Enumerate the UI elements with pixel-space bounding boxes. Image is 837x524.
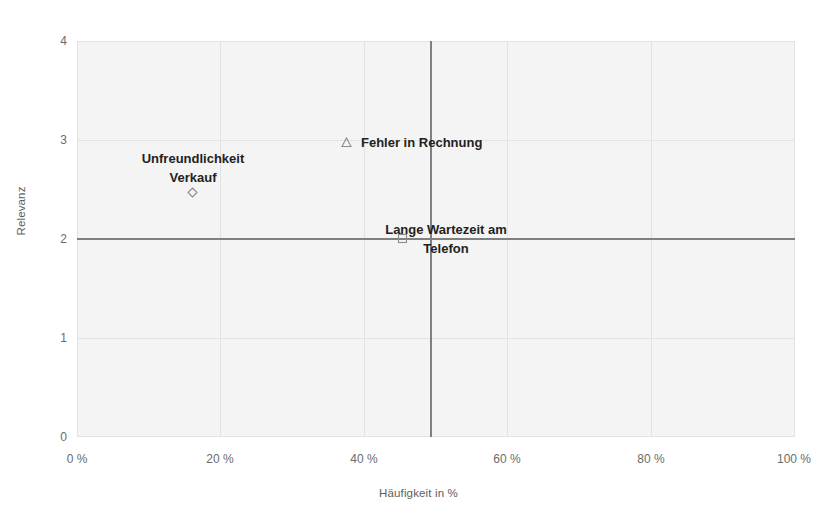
x-tick-label: 80 % xyxy=(606,452,696,466)
data-point-label: Fehler in Rechnung xyxy=(361,133,482,152)
y-tick-label: 0 xyxy=(7,430,67,444)
x-tick-label: 100 % xyxy=(749,452,837,466)
gridline-horizontal xyxy=(77,338,795,339)
data-point-label: Lange Wartezeit am Telefon xyxy=(335,220,557,258)
x-axis-title: Häufigkeit in % xyxy=(0,487,837,499)
data-point-label: Unfreundlichkeit Verkauf xyxy=(118,149,268,187)
x-tick-label: 0 % xyxy=(32,452,122,466)
data-point-label-line: Telefon xyxy=(335,239,557,258)
data-point-label-line: Unfreundlichkeit xyxy=(118,149,268,168)
y-tick-label: 1 xyxy=(7,331,67,345)
x-tick-label: 40 % xyxy=(319,452,409,466)
gridline-horizontal xyxy=(77,436,795,437)
data-point-marker-diamond xyxy=(187,187,198,198)
y-tick-label: 4 xyxy=(7,34,67,48)
gridline-horizontal xyxy=(77,41,795,42)
data-point-marker-triangle xyxy=(341,137,352,148)
data-point-label-line: Fehler in Rechnung xyxy=(361,133,482,152)
x-tick-label: 20 % xyxy=(175,452,265,466)
data-point-label-line: Verkauf xyxy=(118,168,268,187)
plot-area: Fehler in Rechnung Unfreundlichkeit Verk… xyxy=(77,41,795,437)
data-point-label-line: Lange Wartezeit am xyxy=(335,220,557,239)
y-axis-title: Relevanz xyxy=(15,151,27,271)
y-tick-label: 2 xyxy=(7,232,67,246)
y-tick-label: 3 xyxy=(7,133,67,147)
x-tick-label: 60 % xyxy=(462,452,552,466)
scatter-chart: Relevanz 4 3 2 1 0 Fehler in Rechnung xyxy=(0,0,837,524)
